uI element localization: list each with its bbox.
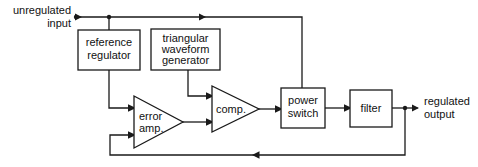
input-label-line2: input [47,17,71,29]
waveform-generator-label-line3: generator [162,54,209,66]
arrowhead-feedback-bottom [252,151,260,159]
power-switch-label-line1: power [288,94,318,106]
filter-label-line1: filter [361,102,382,114]
input-label-line1: unregulated [13,4,71,16]
comparator-label-line1: comp. [216,103,246,115]
error-amp-label-line1: error [139,110,163,122]
power-switch-label-line2: switch [288,107,319,119]
junction-input-terminal [74,15,78,19]
output-label-line1: regulated [424,95,470,107]
reference-regulator-label-line2: regulator [87,49,131,61]
reference-regulator-label-line1: reference [86,36,132,48]
error-amp-label-line2: amp. [139,122,163,134]
output-label-line2: output [424,108,455,120]
arrowhead-output-terminal [412,105,419,112]
switching-regulator-diagram: reference regulator triangular waveform … [0,0,478,167]
wire-reference-regulator-to-error-amp [109,70,134,108]
block-diagram-canvas: reference regulator triangular waveform … [0,0,478,167]
arrowhead-input-rail-right [199,14,206,21]
wire-waveform-generator-to-comparator [188,70,212,96]
